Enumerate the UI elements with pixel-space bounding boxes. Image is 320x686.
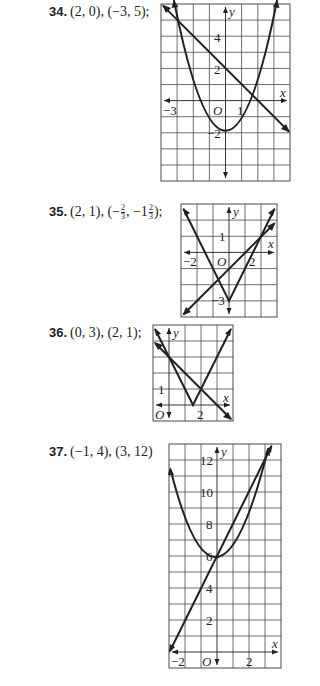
fraction: 23 [149,204,153,221]
problem-35-label: 35.(2, 1), (−23, −123); [49,204,162,221]
tick-y-6: 6 [206,549,213,564]
tick-y-2: 2 [206,613,213,628]
tick-x-1: 1 [237,103,244,118]
x-axis-label: x [267,236,274,251]
graph-35: −2 O 2 1 −3 x y [181,204,278,318]
tick-x-2: 2 [197,407,204,422]
line-curve [155,343,231,419]
answer-part: ); [154,204,163,219]
graph-34: −3 O 1 4 2 −2 x y [161,4,291,182]
absolute-value-curve [155,329,231,405]
tick-x-2: 2 [246,654,253,669]
tick-x-neg2: −2 [171,654,185,669]
tick-y-8: 8 [206,517,213,532]
x-axis-label: x [271,636,278,651]
problem-number: 36. [49,325,67,340]
y-axis-label: y [171,325,179,340]
tick-y-10: 10 [200,485,213,500]
problem-number: 34. [49,4,67,19]
tick-y-2: 2 [214,62,221,77]
fraction: 23 [121,204,125,221]
graph-37: −2 O 2 12 10 8 6 4 2 x y [169,444,282,669]
tick-y-neg3: −3 [211,293,225,308]
tick-origin: O [217,254,227,269]
tick-x-neg2: −2 [183,254,197,269]
tick-y-4: 4 [206,581,213,596]
tick-y-1: 1 [158,382,165,397]
grid [169,444,281,668]
x-axis-label: x [222,390,229,405]
answer-part: , −1 [126,204,148,219]
graph-36: O 2 1 x y [153,325,234,422]
problem-answer: (2, 0), (−3, 5); [70,4,149,19]
tick-y-neg2: −2 [207,126,221,141]
problem-36-label: 36.(0, 3), (2, 1); [49,326,142,340]
problem-answer: (0, 3), (2, 1); [70,325,142,340]
y-axis-label: y [227,4,235,19]
y-axis-label: y [231,204,239,219]
tick-y-1: 1 [219,229,226,244]
tick-y-12: 12 [200,453,213,468]
tick-origin: O [213,103,223,118]
tick-x-neg3: −3 [163,103,177,118]
tick-y-4: 4 [214,30,221,45]
problem-number: 37. [49,444,67,459]
tick-x-2: 2 [249,254,256,269]
problem-34-label: 34.(2, 0), (−3, 5); [49,5,150,19]
problem-answer: (−1, 4), (3, 12) [70,444,153,459]
y-axis-label: y [219,444,227,459]
problem-number: 35. [49,204,67,219]
problem-37-label: 37.(−1, 4), (3, 12) [49,445,153,459]
tick-origin: O [155,407,165,422]
tick-origin: O [202,654,212,669]
answer-part: (2, 1), (− [70,204,120,219]
x-axis-label: x [279,85,286,100]
